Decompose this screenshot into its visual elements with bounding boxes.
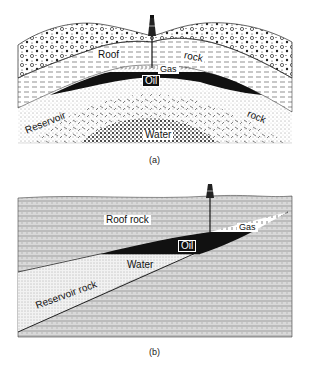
wedge-diagram [0, 184, 309, 368]
caption-b: (b) [0, 347, 309, 357]
figure-b-wedge: Roof rock Gas Oil Water Reservoir rock (… [0, 184, 309, 368]
label-water: Water [127, 260, 153, 270]
label-roof-rock: Roof rock [104, 215, 151, 225]
label-oil: Oil [142, 75, 160, 87]
figure-a-anticline: Roof rock Gas Oil Reservoir rock Water (… [0, 0, 309, 184]
label-water: Water [143, 130, 173, 140]
label-roof: Roof [96, 50, 121, 60]
label-gas: Gas [158, 65, 179, 74]
label-oil: Oil [178, 240, 196, 252]
label-gas: Gas [237, 223, 258, 232]
caption-a: (a) [0, 155, 309, 165]
